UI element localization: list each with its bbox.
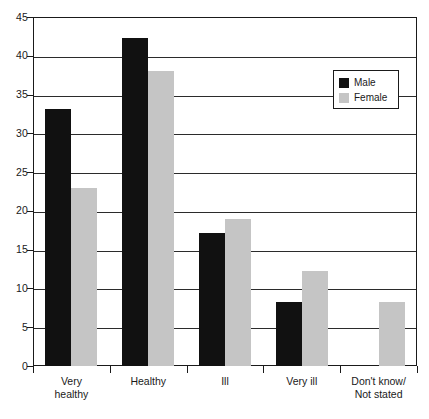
x-tick-mark [187,366,188,373]
y-tick-label: 40 [4,50,28,61]
bar-male-2 [199,233,225,366]
bar-male-1 [122,38,148,366]
x-tick-label-line: Don't know/ [334,375,424,388]
bar-female-3 [302,271,328,366]
bar-female-1 [148,71,174,366]
legend-item-male: Male [339,75,398,90]
x-tick-label-line: healthy [26,388,116,401]
legend: Male Female [333,70,399,109]
x-tick-label-4: Don't know/Not stated [334,375,424,401]
legend-item-female: Female [339,90,398,105]
y-tick-label: 15 [4,244,28,255]
x-tick-mark [33,366,34,373]
bar-chart: 051015202530354045 VeryhealthyHealthyIll… [0,0,429,419]
bar-male-0 [45,109,71,366]
x-tick-mark [340,366,341,373]
y-tick-label: 20 [4,205,28,216]
y-tick-label: 35 [4,89,28,100]
y-tick-label: 0 [4,361,28,372]
x-tick-label-line: Not stated [334,388,424,401]
legend-label-male: Male [354,78,376,88]
y-tick-label: 25 [4,167,28,178]
legend-swatch-male-icon [339,78,349,88]
legend-swatch-female-icon [339,93,349,103]
bar-female-4 [379,302,405,366]
y-axis: 051015202530354045 [0,0,28,419]
x-tick-mark [417,366,418,373]
x-tick-mark [263,366,264,373]
bar-male-3 [276,302,302,366]
legend-label-female: Female [354,93,387,103]
bar-female-0 [71,188,97,366]
x-tick-mark [110,366,111,373]
y-tick-label: 5 [4,322,28,333]
bar-female-2 [225,219,251,366]
y-tick-label: 30 [4,128,28,139]
y-tick-label: 10 [4,283,28,294]
y-tick-label: 45 [4,12,28,23]
